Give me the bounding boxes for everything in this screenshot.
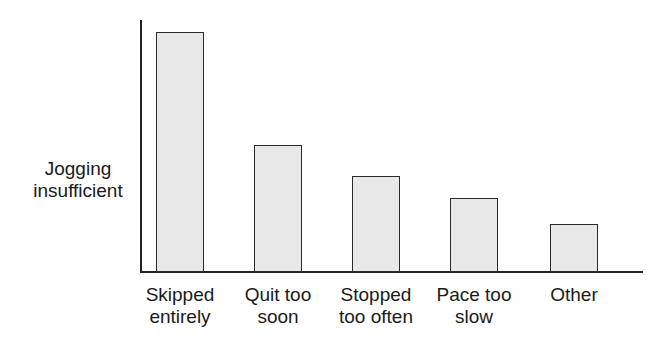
x-tick-label-line2: slow (419, 306, 529, 328)
x-tick-label-line1: Pace too (419, 284, 529, 306)
x-tick-label: Other (519, 284, 629, 306)
x-tick-label-line2: too often (321, 306, 431, 328)
bar-skipped-entirely (156, 32, 204, 272)
bar-quit-too-soon (254, 145, 302, 272)
x-tick-label-line1: Other (519, 284, 629, 306)
x-tick-label: Pace tooslow (419, 284, 529, 328)
x-tick-label-line1: Quit too (223, 284, 333, 306)
y-axis (140, 20, 142, 273)
y-axis-label: Jogging insufficient (22, 158, 134, 202)
x-tick-label: Quit toosoon (223, 284, 333, 328)
bar-pace-too-slow (450, 198, 498, 272)
bar-stopped-too-often (352, 176, 400, 272)
x-tick-label-line1: Stopped (321, 284, 431, 306)
y-axis-label-line2: insufficient (22, 180, 134, 202)
x-tick-label: Stoppedtoo often (321, 284, 431, 328)
x-tick-label-line1: Skipped (125, 284, 235, 306)
x-tick-label: Skippedentirely (125, 284, 235, 328)
x-tick-label-line2: entirely (125, 306, 235, 328)
x-tick-label-line2: soon (223, 306, 333, 328)
bar-other (550, 224, 598, 272)
y-axis-label-line1: Jogging (22, 158, 134, 180)
